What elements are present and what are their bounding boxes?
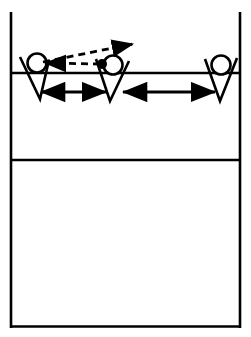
player-right-head [212, 56, 231, 75]
diagram-root [0, 0, 251, 337]
court-diagram [0, 0, 251, 337]
ball-marker [97, 59, 107, 69]
canvas-background [0, 0, 251, 337]
